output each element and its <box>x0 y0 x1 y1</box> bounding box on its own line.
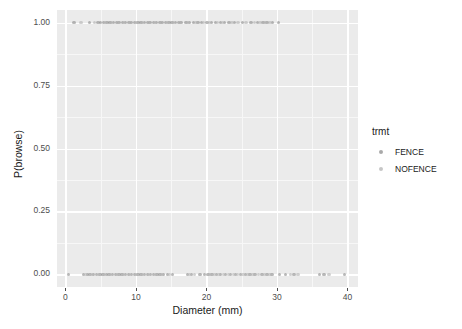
data-point <box>198 273 201 276</box>
x-tick-mark <box>136 288 137 291</box>
legend: trmt FENCENOFENCE <box>372 126 458 177</box>
legend-item-label: FENCE <box>395 147 424 157</box>
data-point <box>103 273 106 276</box>
data-point <box>141 273 144 276</box>
legend-key-icon <box>372 160 389 177</box>
data-point <box>236 21 239 24</box>
x-axis-title: Diameter (mm) <box>57 304 358 316</box>
data-point <box>232 273 235 276</box>
data-point <box>193 273 196 276</box>
legend-item-fence[interactable]: FENCE <box>372 143 458 160</box>
data-point <box>322 273 325 276</box>
plot-panel <box>57 10 358 287</box>
x-tick-mark <box>277 288 278 291</box>
data-point <box>251 273 254 276</box>
gridline-major <box>57 211 358 212</box>
y-axis-ticks: 0.000.250.500.751.00 <box>6 0 50 329</box>
y-tick-label: 1.00 <box>6 17 50 27</box>
y-tick-label: 0.50 <box>6 143 50 153</box>
data-point <box>268 21 271 24</box>
legend-dot-icon <box>379 150 383 154</box>
data-point <box>160 273 163 276</box>
legend-items: FENCENOFENCE <box>372 143 458 177</box>
data-point <box>263 21 266 24</box>
data-point <box>277 21 280 24</box>
data-point <box>171 273 174 276</box>
data-point <box>289 273 292 276</box>
legend-key-icon <box>372 143 389 160</box>
legend-item-label: NOFENCE <box>395 164 437 174</box>
x-tick-mark <box>347 288 348 291</box>
data-point <box>327 273 330 276</box>
data-point <box>72 21 75 24</box>
data-point <box>241 273 244 276</box>
data-point <box>318 273 321 276</box>
legend-title: trmt <box>372 126 458 137</box>
data-point <box>258 21 261 24</box>
data-point <box>165 21 168 24</box>
data-point <box>88 21 91 24</box>
data-point <box>246 273 249 276</box>
data-point <box>153 21 156 24</box>
x-tick-label: 30 <box>257 292 297 302</box>
data-point <box>134 21 137 24</box>
legend-dot-icon <box>379 167 383 171</box>
gridline-major <box>57 86 358 87</box>
y-tick-label: 0.00 <box>6 268 50 278</box>
x-tick-label: 0 <box>45 292 85 302</box>
gridline-major <box>57 149 358 150</box>
data-point <box>343 273 346 276</box>
data-point <box>186 21 189 24</box>
data-point <box>122 273 125 276</box>
data-point <box>67 273 70 276</box>
x-tick-mark <box>65 288 66 291</box>
data-point <box>79 21 82 24</box>
data-point <box>253 21 256 24</box>
data-point <box>230 21 233 24</box>
data-point <box>284 273 287 276</box>
data-point <box>208 273 211 276</box>
scatter-plot: P(browse) 0.000.250.500.751.00 010203040… <box>0 0 462 329</box>
x-tick-label: 10 <box>116 292 156 302</box>
y-tick-label: 0.75 <box>6 80 50 90</box>
data-point <box>213 273 216 276</box>
y-tick-label: 0.25 <box>6 205 50 215</box>
data-point <box>115 273 118 276</box>
data-point <box>217 273 220 276</box>
data-point <box>194 21 197 24</box>
x-tick-label: 20 <box>186 292 226 302</box>
data-point <box>93 21 96 24</box>
data-point <box>268 273 271 276</box>
data-point <box>263 273 266 276</box>
data-point <box>292 273 295 276</box>
data-point <box>296 273 299 276</box>
data-point <box>122 21 125 24</box>
data-point <box>278 273 281 276</box>
x-tick-mark <box>206 288 207 291</box>
data-point <box>227 273 230 276</box>
data-point <box>84 273 87 276</box>
data-point <box>103 21 106 24</box>
data-point <box>134 273 137 276</box>
x-tick-label: 40 <box>327 292 367 302</box>
data-point <box>91 273 94 276</box>
legend-item-nofence[interactable]: NOFENCE <box>372 160 458 177</box>
data-point <box>244 21 247 24</box>
